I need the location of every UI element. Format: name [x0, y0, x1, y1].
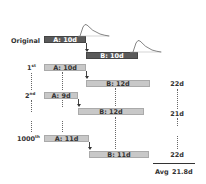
avg-label: Avg — [155, 168, 169, 176]
row-label-2nd: 2nd — [25, 92, 35, 100]
row-label-1st: 1st — [27, 64, 36, 72]
run1-total: 22d — [167, 80, 187, 88]
row-num-1000th: 1000 — [17, 135, 35, 143]
row-label-original: Original — [11, 37, 40, 45]
run1000-task-b-bar: B: 11d — [89, 151, 149, 158]
ellipsis-line-labels-2 — [31, 100, 32, 112]
ellipsis-line-labels-3 — [31, 121, 32, 132]
row-sup-2nd: nd — [30, 91, 36, 96]
run1000-task-a-bar: A: 11d — [44, 135, 89, 142]
run2-task-a-bar: A: 9d — [44, 92, 78, 99]
distribution-curve-a-icon — [78, 22, 110, 38]
run1-task-b-bar: B: 12d — [86, 80, 150, 87]
row-sup-1000th: th — [35, 134, 40, 139]
ellipsis-line-total-1 — [177, 89, 178, 109]
run1-task-a-bar: A: 10d — [44, 64, 86, 71]
ellipsis-line-a-1 — [62, 72, 63, 90]
original-dependency-arrow-icon — [85, 49, 89, 52]
avg-value: 21.8d — [172, 168, 193, 176]
run2-dependency-arrow-icon — [77, 104, 81, 107]
run2-total: 21d — [167, 110, 187, 118]
run2-task-b-bar: B: 12d — [78, 108, 144, 115]
ellipsis-line-a-2 — [62, 100, 63, 107]
row-label-1000th: 1000th — [17, 135, 40, 143]
ellipsis-line-total-3 — [177, 136, 178, 149]
run1-dependency-arrow-icon — [85, 76, 89, 79]
ellipsis-line-b-2 — [115, 117, 116, 149]
row-sup-1st: st — [32, 63, 36, 68]
row-num-2nd: 2 — [25, 92, 30, 100]
run1000-dependency-arrow-icon — [88, 147, 92, 150]
ellipsis-line-a-3 — [62, 121, 63, 132]
row-num-1st: 1 — [27, 64, 32, 72]
ellipsis-line-b-1 — [115, 88, 116, 106]
summary-divider — [153, 163, 195, 164]
ellipsis-line-labels-1 — [31, 73, 32, 90]
ellipsis-line-total-2 — [177, 118, 178, 126]
run1000-total: 22d — [167, 151, 187, 159]
distribution-curve-b-icon — [130, 39, 162, 53]
original-task-b-bar: B: 10d — [86, 52, 138, 59]
